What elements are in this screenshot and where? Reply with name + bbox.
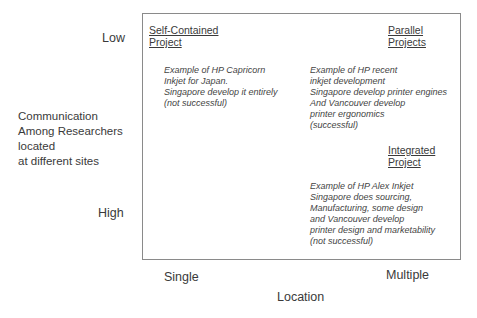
x-axis-title: Location — [277, 290, 324, 304]
parallel-description: Example of HP recent inkjet development … — [310, 65, 447, 131]
x-axis-single-label: Single — [164, 270, 199, 284]
parallel-title: Parallel Projects — [388, 24, 426, 48]
x-axis-multiple-label: Multiple — [386, 268, 429, 282]
self-contained-title: Self-Contained Project — [149, 24, 218, 48]
y-axis-low-label: Low — [102, 31, 125, 45]
y-axis-high-label: High — [98, 206, 124, 220]
self-contained-description: Example of HP Capricorn Inkjet for Japan… — [164, 65, 278, 109]
y-axis-title: Communication Among Researchers located … — [18, 109, 123, 169]
integrated-description: Example of HP Alex Inkjet Singapore does… — [310, 181, 435, 247]
integrated-title: Integrated Project — [388, 144, 435, 168]
